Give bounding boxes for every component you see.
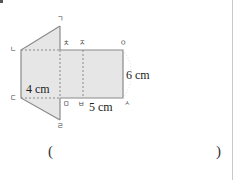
vertex-label-m: ㅁ — [63, 101, 69, 108]
vertex-label-j: ㅈ — [79, 40, 85, 47]
vertex-label-d: ㄷ — [10, 95, 16, 102]
rectangle-face — [60, 50, 123, 98]
vertex-label-s: ㅅ — [124, 100, 130, 107]
vertex-label-r: ㄹ — [57, 123, 63, 130]
dimension-4cm: 4 cm — [26, 83, 50, 95]
vertex-label-ch: ㅊ — [63, 40, 69, 47]
vertex-label-n: ㄴ — [10, 46, 16, 53]
dimension-5cm: 5 cm — [89, 101, 113, 113]
answer-open-paren: ( — [48, 144, 53, 159]
trapezoid-face — [21, 26, 60, 120]
answer-close-paren: ) — [216, 144, 221, 159]
vertex-label-g: ㄱ — [57, 16, 63, 23]
vertex-label-b: ㅂ — [78, 101, 84, 108]
vertex-label-o: ㅇ — [120, 40, 126, 47]
dimension-6cm: 6 cm — [126, 69, 150, 81]
